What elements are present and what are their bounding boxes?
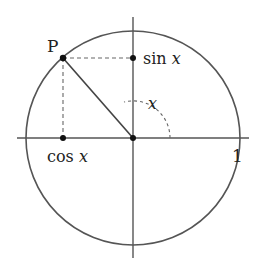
- label-cos-fn: cos: [47, 147, 74, 166]
- point-P: [60, 55, 66, 61]
- label-angle-x: x: [148, 94, 157, 113]
- label-cos-var: x: [79, 147, 88, 166]
- angle-arc: [124, 101, 170, 138]
- label-one: 1: [232, 146, 243, 166]
- label-sin-var: x: [172, 49, 181, 68]
- radius-line-OP: [63, 58, 133, 138]
- label-sin-x: sin x: [143, 49, 181, 68]
- label-P: P: [47, 36, 58, 56]
- label-cos-x: cos x: [47, 147, 88, 166]
- label-sin-fn: sin: [143, 49, 167, 68]
- unit-circle-diagram: P sin x x cos x 1: [0, 0, 264, 272]
- point-sin: [130, 55, 136, 61]
- point-cos: [60, 135, 66, 141]
- point-origin: [130, 135, 136, 141]
